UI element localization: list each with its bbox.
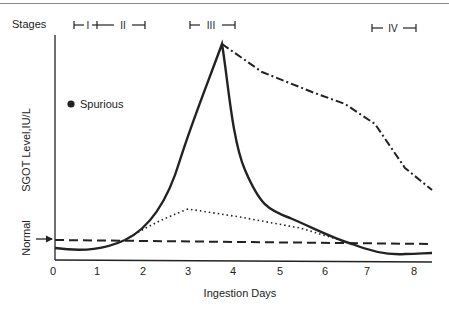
svg-text:2: 2 [140,265,146,277]
svg-text:3: 3 [185,265,191,277]
series-dash-dot [222,44,432,190]
series-solid-sgot [55,44,432,254]
stage-ii-label: II [120,20,126,31]
svg-text:8: 8 [411,265,417,277]
svg-text:1: 1 [94,265,100,277]
series-dotted [130,209,350,243]
stage-iv-label: IV [388,23,398,34]
normal-arrow-icon [36,236,53,243]
x-tick-labels: 0 1 2 3 4 5 6 7 8 [50,265,417,277]
svg-text:0: 0 [50,265,56,277]
spurious-marker-icon [67,100,74,107]
chart: Stages I II III IV SGOT Level,IU/L Norma… [0,0,449,314]
svg-text:7: 7 [364,265,370,277]
y-axis-label: SGOT Level,IU/L [20,108,32,192]
svg-text:4: 4 [230,265,236,277]
series-normal-dashed [55,240,432,244]
stage-iii-label: III [207,20,215,31]
svg-text:5: 5 [277,265,283,277]
legend-spurious-label: Spurious [80,98,124,110]
normal-label: Normal [20,220,32,255]
svg-text:6: 6 [322,265,328,277]
x-axis [55,260,432,262]
stages-label: Stages [12,18,47,30]
x-axis-label: Ingestion Days [204,287,277,299]
stage-i-label: I [87,20,90,31]
